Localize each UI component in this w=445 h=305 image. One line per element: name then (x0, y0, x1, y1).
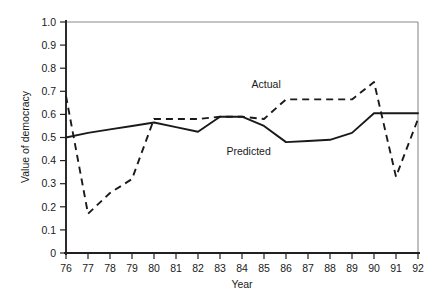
chart-figure: 1.00.90.80.70.60.50.40.30.20.10 Value of… (0, 0, 445, 305)
x-axis-title: Year (231, 278, 253, 290)
x-tick-label: 78 (104, 262, 116, 274)
x-tick-label: 88 (324, 262, 336, 274)
x-tick-label: 83 (214, 262, 226, 274)
y-tick-label: 0.6 (41, 108, 56, 120)
y-tick-label: 0.8 (41, 62, 56, 74)
x-tick-label: 85 (258, 262, 270, 274)
x-tick-label: 84 (236, 262, 248, 274)
x-tick-label: 86 (280, 262, 292, 274)
y-tick-label: 0.2 (41, 201, 56, 213)
y-tick-label: 0.7 (41, 85, 56, 97)
series-line-predicted (66, 113, 418, 142)
x-tick-label: 90 (368, 262, 380, 274)
x-tick-label: 91 (390, 262, 402, 274)
x-axis: 7677787980818283848586878889909192 Year (60, 253, 424, 290)
y-tick-label: 0.1 (41, 224, 56, 236)
series-annotation-predicted: Predicted (226, 145, 271, 157)
y-tick-label: 0.3 (41, 177, 56, 189)
y-tick-label: 0.5 (41, 131, 56, 143)
democracy-line-chart: 1.00.90.80.70.60.50.40.30.20.10 Value of… (0, 0, 445, 305)
y-tick-label: 0.9 (41, 39, 56, 51)
x-tick-label: 77 (82, 262, 94, 274)
x-tick-label: 81 (170, 262, 182, 274)
x-tick-label-group: 7677787980818283848586878889909192 (60, 262, 424, 274)
y-axis-title: Value of democracy (19, 90, 31, 183)
y-tick-label: 0.4 (41, 154, 56, 166)
y-tick-label: 0 (50, 247, 56, 259)
x-tick-label: 92 (412, 262, 424, 274)
x-tick-label: 89 (346, 262, 358, 274)
x-tick-label: 80 (148, 262, 160, 274)
x-tick-label: 76 (60, 262, 72, 274)
y-tick-label-group: 1.00.90.80.70.60.50.40.30.20.10 (41, 16, 56, 259)
y-axis: 1.00.90.80.70.60.50.40.30.20.10 Value of… (19, 16, 66, 259)
x-tick-label: 87 (302, 262, 314, 274)
x-tick-label: 82 (192, 262, 204, 274)
x-tick-label: 79 (126, 262, 138, 274)
series-annotation-actual: Actual (252, 78, 281, 90)
plot-frame (66, 22, 418, 253)
y-tick-label: 1.0 (41, 16, 56, 28)
